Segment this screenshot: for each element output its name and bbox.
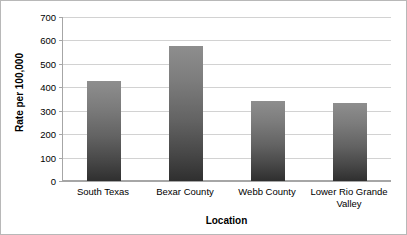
- gridline-700: [63, 17, 391, 18]
- y-axis-title: Rate per 100,000: [14, 13, 25, 173]
- gridline-500: [63, 64, 391, 65]
- gridline-600: [63, 40, 391, 41]
- y-tick-label-200: 200: [40, 129, 56, 140]
- x-axis-label-2: Webb County: [226, 186, 308, 198]
- y-tick-label-0: 0: [51, 176, 56, 187]
- bar-chart-figure: Rate per 100,000 7006005004003002001000 …: [0, 0, 407, 235]
- y-tick-label-400: 400: [40, 82, 56, 93]
- bar-3: [333, 103, 367, 181]
- y-tick-label-100: 100: [40, 152, 56, 163]
- x-axis-label-3: Lower Rio Grande Valley: [308, 186, 390, 210]
- y-tick-label-600: 600: [40, 35, 56, 46]
- plot-area: 7006005004003002001000: [62, 17, 391, 182]
- y-tick-label-700: 700: [40, 12, 56, 23]
- bar-2: [251, 101, 285, 181]
- y-tick-mark-0: [59, 181, 63, 182]
- x-axis-label-0: South Texas: [62, 186, 144, 198]
- bar-0: [87, 81, 121, 181]
- x-axis-label-1: Bexar County: [144, 186, 226, 198]
- x-axis-title: Location: [62, 215, 391, 226]
- bar-1: [169, 46, 203, 181]
- y-tick-label-300: 300: [40, 105, 56, 116]
- y-tick-label-500: 500: [40, 58, 56, 69]
